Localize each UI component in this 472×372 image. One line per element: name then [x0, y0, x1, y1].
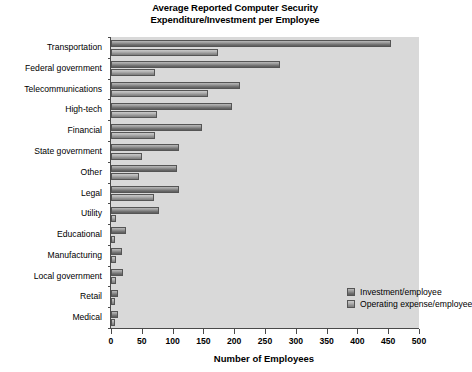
x-axis-tick — [388, 329, 389, 334]
y-axis-label: Utility — [0, 203, 106, 224]
x-axis-tick — [142, 329, 143, 334]
x-axis-tick-label: 250 — [258, 336, 272, 346]
y-axis-label: Telecommunications — [0, 79, 106, 100]
bar-operating-expense — [111, 256, 116, 263]
bar-group — [111, 245, 419, 266]
chart-title-line-2: Expenditure/Investment per Employee — [105, 14, 365, 26]
bar-investment — [111, 124, 202, 131]
legend-label-investment: Investment/employee — [360, 287, 442, 297]
bar-operating-expense — [111, 319, 115, 326]
y-axis-tick — [108, 141, 111, 142]
x-axis-tick — [234, 329, 235, 334]
legend-swatch-investment-icon — [347, 288, 355, 296]
x-axis-tick-label: 200 — [227, 336, 241, 346]
bar-operating-expense — [111, 298, 115, 305]
x-axis-tick-label: 300 — [289, 336, 303, 346]
bar-investment — [111, 144, 179, 151]
y-axis-tick — [108, 203, 111, 204]
y-axis-tick — [108, 37, 111, 38]
bar-group — [111, 120, 419, 141]
bar-group — [111, 266, 419, 287]
bar-group — [111, 58, 419, 79]
bar-operating-expense — [111, 277, 116, 284]
bar-group — [111, 224, 419, 245]
bar-operating-expense — [111, 90, 208, 97]
y-axis-tick — [108, 245, 111, 246]
legend-item-investment: Investment/employee — [347, 286, 472, 297]
y-axis-label: Other — [0, 162, 106, 183]
y-axis-tick — [108, 286, 111, 287]
bar-group — [111, 203, 419, 224]
bars-layer — [111, 37, 419, 328]
x-axis-tick — [203, 329, 204, 334]
bar-investment — [111, 186, 179, 193]
bar-group — [111, 79, 419, 100]
plot-area: Investment/employee Operating expense/em… — [110, 37, 419, 329]
x-axis-tick-label: 500 — [412, 336, 426, 346]
x-axis-tick — [265, 329, 266, 334]
x-axis-tick-label: 400 — [350, 336, 364, 346]
bar-operating-expense — [111, 132, 155, 139]
bar-operating-expense — [111, 215, 116, 222]
y-axis-label: High-tech — [0, 99, 106, 120]
x-axis-tick — [296, 329, 297, 334]
chart-title-line-1: Average Reported Computer Security — [105, 2, 365, 14]
y-axis-label: State government — [0, 141, 106, 162]
y-axis-tick — [108, 307, 111, 308]
bar-operating-expense — [111, 173, 139, 180]
bar-operating-expense — [111, 111, 157, 118]
bar-operating-expense — [111, 69, 155, 76]
x-axis-tick — [357, 329, 358, 334]
y-axis-label: Financial — [0, 120, 106, 141]
bar-investment — [111, 207, 159, 214]
y-axis-label: Educational — [0, 224, 106, 245]
y-axis-tick — [108, 120, 111, 121]
x-axis-tick — [327, 329, 328, 334]
bar-operating-expense — [111, 49, 218, 56]
bar-group — [111, 183, 419, 204]
x-axis-tick-label: 350 — [319, 336, 333, 346]
x-axis-tick — [111, 329, 112, 334]
bar-group — [111, 37, 419, 58]
legend-item-operating-expense: Operating expense/employee — [347, 299, 472, 310]
x-axis-tick-label: 0 — [109, 336, 114, 346]
legend-swatch-operating-expense-icon — [347, 300, 355, 308]
x-axis-tick-label: 50 — [137, 336, 147, 346]
y-axis-tick — [108, 183, 111, 184]
y-axis-label: Legal — [0, 183, 106, 204]
x-axis-tick-label: 150 — [196, 336, 210, 346]
y-axis-tick — [108, 162, 111, 163]
x-axis-tick-label: 450 — [381, 336, 395, 346]
bar-group — [111, 162, 419, 183]
bar-investment — [111, 40, 391, 47]
bar-investment — [111, 82, 240, 89]
y-axis-labels: TransportationFederal governmentTelecomm… — [0, 37, 106, 328]
bar-investment — [111, 269, 123, 276]
bar-investment — [111, 61, 280, 68]
x-axis-title: Number of Employees — [110, 353, 418, 364]
chart-title: Average Reported Computer Security Expen… — [105, 2, 365, 25]
y-axis-label: Transportation — [0, 37, 106, 58]
y-axis-tick — [108, 79, 111, 80]
x-axis-tick — [173, 329, 174, 334]
bar-investment — [111, 290, 118, 297]
bar-group — [111, 99, 419, 120]
y-axis-tick — [108, 266, 111, 267]
bar-investment — [111, 165, 177, 172]
y-axis-label: Federal government — [0, 58, 106, 79]
legend-label-operating-expense: Operating expense/employee — [360, 299, 472, 309]
y-axis-tick — [108, 58, 111, 59]
bar-operating-expense — [111, 194, 154, 201]
chart-legend: Investment/employee Operating expense/em… — [347, 286, 472, 311]
bar-investment — [111, 311, 118, 318]
y-axis-label: Manufacturing — [0, 245, 106, 266]
y-axis-label: Retail — [0, 286, 106, 307]
bar-operating-expense — [111, 153, 142, 160]
y-axis-tick — [108, 99, 111, 100]
y-axis-tick — [108, 224, 111, 225]
bar-operating-expense — [111, 236, 115, 243]
y-axis-label: Local government — [0, 266, 106, 287]
y-axis-label: Medical — [0, 307, 106, 328]
bar-investment — [111, 248, 122, 255]
